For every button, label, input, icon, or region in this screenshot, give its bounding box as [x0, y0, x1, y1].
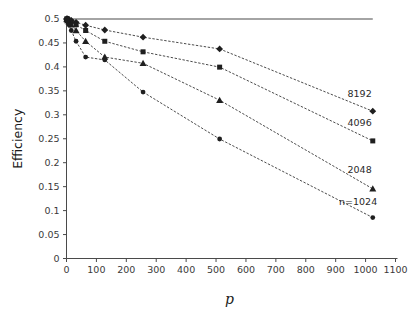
- x-tick-label: 700: [267, 264, 285, 275]
- y-tick-label: 0.45: [38, 37, 59, 48]
- data-point-diamond-marker: [216, 46, 223, 53]
- y-tick-label: 0: [53, 253, 59, 264]
- data-point-square-marker: [74, 22, 79, 27]
- x-tick-label: 800: [297, 264, 315, 275]
- chart-figure: 00.050.10.150.20.250.30.350.40.450.50100…: [0, 0, 412, 316]
- data-point-diamond-marker: [82, 22, 89, 29]
- y-axis-title: Efficiency: [10, 108, 25, 169]
- y-tick-label: 0.5: [44, 13, 59, 24]
- efficiency-vs-p-plot: 00.050.10.150.20.250.30.350.40.450.50100…: [0, 0, 412, 316]
- x-tick-label: 0: [63, 264, 69, 275]
- data-point-diamond-marker: [140, 34, 147, 41]
- x-tick-label: 1100: [383, 264, 407, 275]
- series-label-2048: 2048: [348, 164, 372, 175]
- series-label-1024: n=1024: [339, 196, 377, 207]
- data-point-circle-marker: [66, 22, 71, 27]
- data-point-diamond-marker: [369, 108, 376, 115]
- data-point-square-marker: [217, 65, 222, 70]
- series-label-4096: 4096: [348, 117, 372, 128]
- series-group-2048: 2048: [63, 16, 376, 192]
- data-point-circle-marker: [102, 58, 107, 63]
- x-tick-label: 300: [147, 264, 165, 275]
- data-point-circle-marker: [74, 39, 79, 44]
- data-point-circle-marker: [69, 28, 74, 33]
- data-point-circle-marker: [83, 55, 88, 60]
- data-point-triangle-marker: [216, 97, 223, 103]
- y-tick-label: 0.2: [44, 157, 59, 168]
- series-line-4096: [67, 19, 373, 141]
- y-tick-label: 0.25: [38, 133, 59, 144]
- x-tick-label: 200: [117, 264, 135, 275]
- y-tick-label: 0.35: [38, 85, 59, 96]
- series-label-8192: 8192: [348, 88, 372, 99]
- x-axis-title: p: [225, 291, 234, 307]
- data-point-diamond-marker: [101, 27, 108, 34]
- y-tick-label: 0.1: [44, 205, 59, 216]
- data-point-circle-marker: [141, 90, 146, 95]
- data-point-triangle-marker: [369, 185, 376, 191]
- series-line-2048: [67, 19, 373, 189]
- data-point-circle-marker: [217, 137, 222, 142]
- data-point-square-marker: [83, 28, 88, 33]
- x-tick-label: 900: [327, 264, 345, 275]
- y-tick-label: 0.4: [44, 61, 59, 72]
- x-tick-label: 100: [87, 264, 105, 275]
- x-tick-label: 1000: [353, 264, 377, 275]
- data-point-square-marker: [370, 138, 375, 143]
- x-tick-label: 400: [177, 264, 195, 275]
- x-tick-label: 600: [237, 264, 255, 275]
- y-tick-label: 0.3: [44, 109, 59, 120]
- data-point-square-marker: [141, 49, 146, 54]
- data-point-square-marker: [102, 39, 107, 44]
- x-tick-label: 500: [207, 264, 225, 275]
- y-tick-label: 0.05: [38, 229, 59, 240]
- data-point-circle-marker: [370, 215, 375, 220]
- series-group-4096: 4096: [64, 17, 375, 144]
- y-tick-label: 0.15: [38, 181, 59, 192]
